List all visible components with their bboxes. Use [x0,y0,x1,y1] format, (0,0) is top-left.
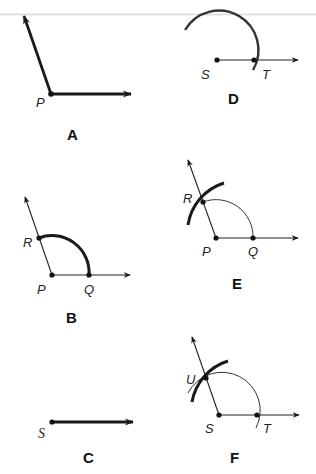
point-label-s: S [205,421,214,436]
panel-label-a: A [67,126,78,143]
point-r [36,235,41,240]
panel-label-c: C [83,449,94,466]
point-label-r: R [23,235,32,250]
point-label-p: P [36,95,45,110]
panel-f: U S T F [186,337,299,466]
panel-c: S C [38,419,133,466]
panel-label-e: E [232,275,242,292]
point-p [49,272,54,277]
point-t [251,57,256,62]
arc-from-s [188,372,260,428]
panel-label-b: B [66,309,77,326]
point-label-p: P [37,282,46,297]
point-label-u: U [186,372,196,387]
point-label-q: Q [84,282,94,297]
point-label-t: T [263,421,272,436]
point-label-s: S [201,67,210,82]
point-label-t: T [262,67,271,82]
point-s [216,412,221,417]
arc-qr-thin [203,200,253,238]
point-label-r: R [183,191,192,206]
point-label-q: Q [248,244,258,259]
arc-from-q [188,183,224,225]
panel-label-f: F [230,449,239,466]
panel-b: R P Q B [23,197,130,326]
point-label-p: P [202,244,211,259]
ray-upper [24,16,51,94]
point-r [200,199,205,204]
vertex-p [48,91,54,97]
point-s [49,419,54,424]
compass-arc [185,11,258,70]
panel-label-d: D [228,90,239,107]
point-p [213,235,218,240]
arc-qr [39,236,89,275]
angle-construction-diagram: P A S T D R P Q B R P Q E [0,0,316,474]
point-u [203,375,208,380]
panel-e: R P Q E [183,160,298,292]
panel-a: P A [24,16,131,143]
point-t [254,412,259,417]
point-s [214,57,219,62]
point-q [86,272,91,277]
panel-d: S T D [185,11,298,107]
point-q [250,235,255,240]
point-label-s: S [38,426,45,441]
